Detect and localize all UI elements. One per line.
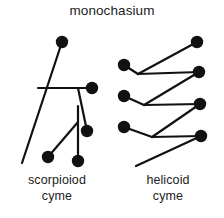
branch-line: [138, 72, 199, 74]
flower-node: [193, 66, 205, 78]
branch-line: [48, 122, 78, 157]
branch-line: [138, 42, 197, 74]
caption-scorpioiod-line1: scorpioiod: [2, 172, 112, 188]
branch-line: [144, 104, 200, 105]
branch-line: [22, 42, 62, 163]
caption-scorpioiod-line2: cyme: [2, 188, 112, 204]
flower-node: [118, 59, 130, 71]
helicoid-cyme-diagram: [118, 36, 207, 166]
caption-helicoid-line2: cyme: [114, 188, 222, 204]
caption-scorpioiod-cyme: scorpioiod cyme: [2, 172, 112, 204]
flower-node: [42, 151, 54, 163]
flower-node: [56, 36, 68, 48]
flower-node: [195, 130, 207, 142]
branch-line: [78, 88, 87, 131]
flower-node: [194, 98, 206, 110]
flower-node: [191, 36, 203, 48]
branch-line: [152, 136, 201, 137]
caption-helicoid-cyme: helicoid cyme: [114, 172, 222, 204]
branch-line: [136, 136, 201, 166]
caption-helicoid-line1: helicoid: [114, 172, 222, 188]
scorpioiod-cyme-diagram: [22, 36, 98, 167]
flower-node: [81, 125, 93, 137]
branch-line: [152, 104, 200, 137]
flower-node: [118, 121, 130, 133]
branch-line: [144, 72, 199, 105]
flower-node: [118, 90, 130, 102]
flower-node: [72, 155, 84, 167]
flower-node: [86, 82, 98, 94]
botany-inflorescence-figure: monochasium scorpioiod cyme helicoid cym…: [0, 0, 224, 218]
